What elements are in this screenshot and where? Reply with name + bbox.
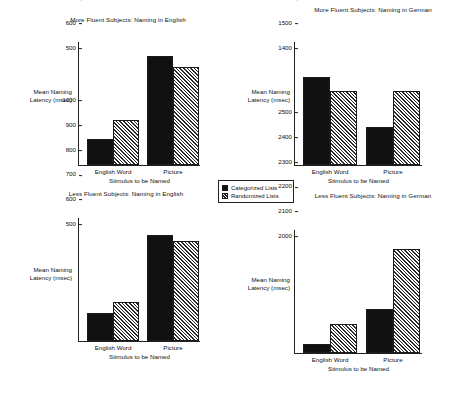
panel-title: Less Fluent Subjects: Naming in German bbox=[262, 192, 458, 199]
y-axis-label-line1: Mean Naming bbox=[251, 276, 290, 283]
x-tick-label: Picture bbox=[163, 168, 182, 175]
x-tick-label: English Word bbox=[95, 344, 132, 351]
x-axis-label: Stimulus to be Named bbox=[295, 177, 422, 184]
bar-randomized-english-word bbox=[113, 302, 139, 341]
plot-area: 1000 900 800 700 600 500 English Word Pi… bbox=[78, 42, 200, 166]
x-axis-label: Stimulus to be Named bbox=[79, 353, 200, 360]
panel-less-fluent-english: Less Fluent Subjects: Naming in English … bbox=[12, 190, 224, 376]
plot-area: 2500 2400 2300 2200 2100 2000 English Wo… bbox=[294, 230, 422, 354]
bar-categorized-picture bbox=[366, 127, 393, 165]
y-tick: 600 bbox=[66, 20, 79, 26]
bar-randomized-picture bbox=[393, 249, 420, 353]
y-tick: 500 bbox=[66, 221, 79, 227]
bar-categorized-english-word bbox=[87, 139, 113, 165]
x-tick-label: English Word bbox=[312, 356, 349, 363]
y-axis-label-line1: Mean Naming bbox=[33, 266, 72, 273]
y-axis-label-line1: Mean Naming bbox=[33, 88, 72, 95]
y-tick: 600 bbox=[66, 196, 79, 202]
bar-categorized-picture bbox=[366, 309, 393, 353]
bar-categorized-picture bbox=[147, 56, 173, 165]
plot-area: 1900 1800 1700 1600 1500 1400 English Wo… bbox=[294, 42, 422, 166]
y-axis-label-line1: Mean Naming bbox=[251, 88, 290, 95]
panel-title: More Fluent Subjects: Naming in English bbox=[22, 16, 234, 23]
x-tick-label: Picture bbox=[163, 344, 182, 351]
x-tick-label: English Word bbox=[312, 168, 349, 175]
y-tick: 800 bbox=[66, 147, 79, 153]
bar-randomized-english-word bbox=[113, 120, 139, 165]
panel-more-fluent-english: More Fluent Subjects: Naming in English … bbox=[12, 16, 224, 194]
bar-categorized-english-word bbox=[87, 313, 113, 341]
y-tick: 2100 bbox=[278, 208, 295, 214]
panel-title: More Fluent Subjects: Naming in German bbox=[262, 6, 458, 13]
y-tick: 2000 bbox=[278, 233, 295, 239]
plot-area: 1000 900 800 700 600 500 English Word Pi… bbox=[78, 218, 200, 342]
x-axis-label: Stimulus to be Named bbox=[79, 177, 200, 184]
bar-randomized-english-word bbox=[330, 324, 357, 353]
y-tick: 700 bbox=[66, 172, 79, 178]
y-axis-label-line2: Latency (msec) bbox=[248, 284, 290, 291]
panel-title: Less Fluent Subjects: Naming in English bbox=[20, 190, 232, 197]
y-axis-label: Mean Naming Latency (msec) bbox=[228, 276, 290, 293]
x-tick-label: Picture bbox=[383, 356, 402, 363]
bar-randomized-picture bbox=[393, 91, 420, 165]
bar-randomized-english-word bbox=[330, 91, 357, 165]
y-tick: 1600 bbox=[278, 0, 295, 2]
x-axis-label: Stimulus to be Named bbox=[295, 365, 422, 372]
y-tick: 2300 bbox=[278, 159, 295, 165]
panel-more-fluent-german: More Fluent Subjects: Naming in German M… bbox=[232, 6, 454, 192]
y-axis-label: Mean Naming Latency (msec) bbox=[228, 88, 290, 105]
bar-randomized-picture bbox=[173, 241, 199, 341]
x-tick-label: Picture bbox=[383, 168, 402, 175]
y-tick: 1500 bbox=[278, 20, 295, 26]
y-axis-label-line2: Latency (msec) bbox=[30, 274, 72, 281]
y-tick: 1400 bbox=[278, 45, 295, 51]
y-tick: 2500 bbox=[278, 109, 295, 115]
y-tick: 900 bbox=[66, 122, 79, 128]
bar-categorized-english-word bbox=[303, 77, 330, 165]
bar-categorized-picture bbox=[147, 235, 173, 341]
bar-randomized-picture bbox=[173, 67, 199, 165]
y-tick: 1000 bbox=[62, 97, 79, 103]
four-panel-bar-chart-figure: More Fluent Subjects: Naming in English … bbox=[0, 0, 458, 396]
y-axis-label: Mean Naming Latency (msec) bbox=[10, 266, 72, 283]
bar-categorized-english-word bbox=[303, 344, 330, 353]
y-tick: 2400 bbox=[278, 134, 295, 140]
legend-label-categorized: Categorized Lists bbox=[231, 185, 277, 191]
panel-less-fluent-german: Less Fluent Subjects: Naming in German M… bbox=[232, 192, 454, 380]
y-axis-label-line2: Latency (msec) bbox=[248, 96, 290, 103]
y-tick: 2200 bbox=[278, 184, 295, 190]
x-tick-label: English Word bbox=[95, 168, 132, 175]
y-tick: 700 bbox=[66, 0, 79, 2]
y-tick: 500 bbox=[66, 45, 79, 51]
